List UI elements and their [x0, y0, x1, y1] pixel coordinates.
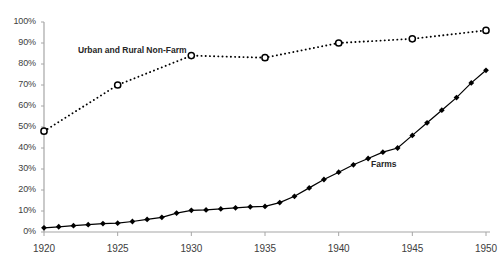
- data-point-marker: [262, 203, 268, 209]
- data-point-marker: [203, 207, 209, 213]
- x-axis-ticks: [44, 232, 486, 236]
- data-point-marker: [41, 225, 47, 231]
- data-point-marker: [71, 223, 77, 229]
- y-axis-tick-label-60: 60%: [2, 100, 36, 110]
- data-point-marker: [262, 55, 268, 61]
- series-urban-and-rural-non-farm: [41, 27, 489, 134]
- data-point-marker: [483, 27, 489, 33]
- data-point-marker: [247, 204, 253, 210]
- data-point-marker: [292, 193, 298, 199]
- data-point-marker: [159, 214, 165, 220]
- x-axis-tick-label-1945: 1945: [392, 243, 432, 254]
- data-point-marker: [306, 185, 312, 191]
- y-axis-tick-label-10: 10%: [2, 205, 36, 215]
- x-axis-tick-label-1930: 1930: [171, 243, 211, 254]
- data-point-marker: [174, 210, 180, 216]
- series-label-urban-and-rural-non-farm: Urban and Rural Non-Farm: [78, 45, 187, 55]
- y-axis-tick-label-70: 70%: [2, 79, 36, 89]
- y-axis-tick-label-90: 90%: [2, 37, 36, 47]
- data-point-marker: [115, 82, 121, 88]
- x-axis-tick-label-1925: 1925: [98, 243, 138, 254]
- series-label-farms: Farms: [371, 159, 397, 169]
- data-point-marker: [336, 40, 342, 46]
- y-axis-tick-label-20: 20%: [2, 184, 36, 194]
- x-axis-tick-label-1940: 1940: [319, 243, 359, 254]
- chart-container: 0%10%20%30%40%50%60%70%80%90%100% 192019…: [0, 0, 502, 269]
- data-point-marker: [218, 206, 224, 212]
- chart-plot-area: [0, 0, 502, 269]
- y-axis-tick-label-80: 80%: [2, 58, 36, 68]
- data-point-marker: [409, 36, 415, 42]
- x-axis-tick-label-1935: 1935: [245, 243, 285, 254]
- y-axis-tick-label-0: 0%: [2, 226, 36, 236]
- data-point-marker: [277, 200, 283, 206]
- y-axis-tick-label-30: 30%: [2, 163, 36, 173]
- data-point-marker: [100, 221, 106, 227]
- x-axis-tick-label-1950: 1950: [466, 243, 502, 254]
- x-axis-tick-label-1920: 1920: [24, 243, 64, 254]
- y-axis-tick-label-100: 100%: [2, 16, 36, 26]
- data-point-marker: [336, 169, 342, 175]
- data-point-marker: [85, 222, 91, 228]
- data-point-marker: [56, 224, 62, 230]
- data-point-marker: [41, 128, 47, 134]
- data-point-marker: [233, 205, 239, 211]
- data-point-marker: [351, 162, 357, 168]
- data-point-marker: [321, 177, 327, 183]
- y-axis-tick-label-40: 40%: [2, 142, 36, 152]
- data-point-marker: [130, 219, 136, 225]
- data-point-marker: [380, 149, 386, 155]
- data-point-marker: [188, 53, 194, 59]
- y-axis-tick-label-50: 50%: [2, 121, 36, 131]
- data-point-marker: [188, 207, 194, 213]
- data-point-marker: [115, 220, 121, 226]
- data-point-marker: [144, 217, 150, 223]
